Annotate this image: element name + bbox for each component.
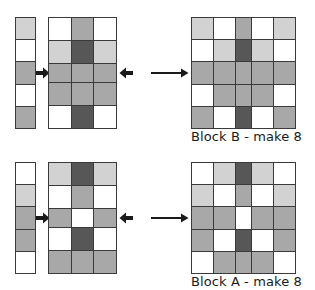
fabric-patch-white	[252, 230, 273, 251]
fabric-patch-white	[94, 106, 116, 128]
fabric-patch-dark	[72, 106, 93, 128]
fabric-patch-light	[214, 40, 235, 61]
fabric-patch-white	[274, 85, 295, 106]
fabric-patch-white	[214, 107, 235, 128]
fabric-patch-medium	[72, 186, 93, 208]
fabric-patch-light	[49, 163, 71, 185]
fabric-patch-light	[94, 163, 116, 185]
fabric-patch-dark	[72, 163, 93, 185]
fabric-patch-light	[274, 185, 295, 206]
fabric-patch-medium	[49, 83, 71, 105]
fabric-patch-white	[72, 209, 93, 227]
fabric-patch-white	[192, 163, 213, 184]
fabric-patch-light	[16, 185, 35, 206]
center-unit-block-a	[48, 162, 117, 274]
arrow-right-icon-result-b	[151, 66, 189, 80]
fabric-patch-medium	[192, 207, 213, 229]
fabric-patch-white	[49, 186, 71, 208]
fabric-patch-white	[252, 107, 273, 128]
fabric-patch-light	[49, 41, 71, 63]
fabric-patch-medium	[236, 185, 251, 206]
fabric-patch-white	[49, 228, 71, 250]
fabric-patch-medium	[192, 62, 213, 84]
fabric-patch-medium	[274, 62, 295, 84]
left-side-strip-block-b	[15, 17, 36, 129]
fabric-patch-medium	[72, 251, 93, 273]
fabric-patch-white	[214, 18, 235, 39]
fabric-patch-dark	[72, 228, 93, 250]
fabric-patch-white	[274, 163, 295, 184]
fabric-patch-medium	[274, 207, 295, 229]
fabric-patch-light	[252, 40, 273, 61]
fabric-patch-medium	[72, 18, 93, 40]
fabric-patch-dark	[236, 163, 251, 184]
fabric-patch-white	[94, 186, 116, 208]
fabric-patch-medium	[94, 64, 116, 82]
fabric-patch-white	[274, 40, 295, 61]
fabric-patch-medium	[236, 18, 251, 39]
arrow-right-icon-result-a	[151, 211, 189, 225]
finished-block-b	[191, 17, 296, 129]
fabric-patch-dark	[236, 40, 251, 61]
fabric-patch-dark	[236, 230, 251, 251]
fabric-patch-medium	[94, 251, 116, 273]
fabric-patch-medium	[16, 230, 35, 251]
fabric-patch-medium	[16, 62, 35, 83]
fabric-patch-white	[274, 252, 295, 273]
assembly-row-block-b: Block B - make 8	[0, 0, 315, 145]
fabric-patch-medium	[236, 85, 251, 106]
fabric-patch-medium	[72, 64, 93, 82]
fabric-patch-medium	[252, 207, 273, 229]
fabric-patch-light	[192, 18, 213, 39]
fabric-patch-light	[252, 163, 273, 184]
fabric-patch-white	[214, 185, 235, 206]
fabric-patch-white	[16, 163, 35, 184]
fabric-patch-white	[236, 207, 251, 229]
block-b-caption: Block B - make 8	[191, 129, 315, 144]
fabric-patch-light	[214, 163, 235, 184]
fabric-patch-white	[94, 18, 116, 40]
fabric-patch-medium	[214, 252, 235, 273]
left-side-strip-block-a	[15, 162, 36, 274]
fabric-patch-white	[252, 185, 273, 206]
fabric-patch-medium	[16, 207, 35, 228]
block-a-caption: Block A - make 8	[191, 274, 315, 289]
center-unit-block-b	[48, 17, 117, 129]
fabric-patch-light	[16, 18, 35, 39]
fabric-patch-white	[49, 18, 71, 40]
fabric-patch-medium	[16, 107, 35, 128]
arrow-left-icon-join-right-b	[119, 66, 133, 80]
quilt-assembly-diagram: Block B - make 8 Block A - make 8	[0, 0, 315, 290]
arrow-left-icon-join-right-a	[119, 211, 133, 225]
fabric-patch-white	[252, 18, 273, 39]
fabric-patch-medium	[192, 230, 213, 251]
fabric-patch-white	[192, 40, 213, 61]
fabric-patch-medium	[49, 64, 71, 82]
fabric-patch-light	[192, 185, 213, 206]
fabric-patch-white	[94, 228, 116, 250]
finished-block-a	[191, 162, 296, 274]
fabric-patch-medium	[72, 83, 93, 105]
fabric-patch-medium	[49, 251, 71, 273]
assembly-row-block-a: Block A - make 8	[0, 145, 315, 290]
fabric-patch-medium	[252, 85, 273, 106]
fabric-patch-white	[214, 230, 235, 251]
fabric-patch-medium	[94, 83, 116, 105]
fabric-patch-medium	[236, 252, 251, 273]
fabric-patch-white	[16, 85, 35, 106]
fabric-patch-medium	[236, 62, 251, 84]
fabric-patch-white	[16, 40, 35, 61]
fabric-patch-medium	[49, 209, 71, 227]
fabric-patch-light	[94, 41, 116, 63]
fabric-patch-medium	[214, 207, 235, 229]
fabric-patch-medium	[94, 209, 116, 227]
fabric-patch-medium	[274, 107, 295, 128]
fabric-patch-light	[274, 18, 295, 39]
fabric-patch-medium	[252, 62, 273, 84]
fabric-patch-medium	[192, 107, 213, 128]
fabric-patch-medium	[214, 62, 235, 84]
fabric-patch-dark	[72, 41, 93, 63]
fabric-patch-white	[192, 85, 213, 106]
fabric-patch-white	[49, 106, 71, 128]
fabric-patch-medium	[214, 85, 235, 106]
